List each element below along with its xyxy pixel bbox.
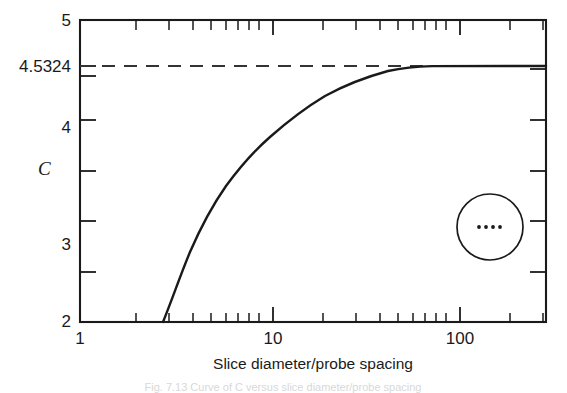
y-tick-label-4p5324: 4.5324	[19, 58, 71, 75]
y-axis-ticks	[80, 66, 96, 272]
chart-plot-area	[0, 0, 567, 393]
figure-caption: Fig. 7.13 Curve of C versus slice diamet…	[145, 382, 422, 393]
probe-dots-icon	[477, 225, 502, 229]
x-axis-title: Slice diameter/probe spacing	[213, 356, 413, 372]
x-axis-major-ticks	[80, 307, 460, 322]
top-axis-minor-ticks	[136, 20, 543, 30]
y-tick-label-4: 4	[62, 119, 71, 136]
slice-circle-icon	[457, 194, 523, 260]
y-tick-label-5: 5	[62, 12, 71, 29]
y-tick-label-3: 3	[62, 236, 71, 253]
y-tick-label-2: 2	[62, 313, 71, 330]
x-tick-label-1: 1	[75, 330, 84, 347]
four-probe-circle-inset	[457, 194, 523, 260]
x-axis-minor-ticks	[136, 313, 543, 322]
x-tick-label-10: 10	[264, 330, 283, 347]
top-axis-major-ticks	[273, 20, 460, 35]
figure-container: 5 4.5324 4 3 2 1 10 100 C Slice diameter…	[0, 0, 567, 393]
x-tick-label-100: 100	[446, 330, 474, 347]
y-axis-title: C	[38, 159, 51, 178]
y-axis-right-ticks	[530, 69, 546, 272]
